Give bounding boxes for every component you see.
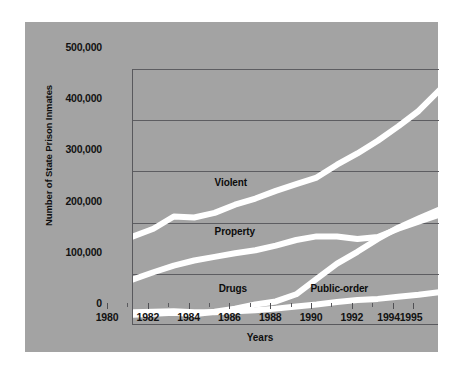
x-tick-label: 1990 (300, 311, 323, 323)
x-tick-label: 1982 (137, 311, 160, 323)
x-tick-label: 1992 (341, 311, 364, 323)
series-line-violent (133, 91, 439, 237)
x-tick-minor (331, 303, 332, 307)
x-tick-minor (127, 303, 128, 307)
x-tick-major (189, 303, 190, 309)
y-tick-label: 300,000 (65, 143, 102, 155)
x-axis-title: Years (107, 332, 413, 343)
plot-area: ViolentPropertyDrugsPublic-order (132, 69, 438, 325)
x-tick-label: 1986 (218, 311, 241, 323)
x-tick-minor (291, 303, 292, 307)
x-tick-major (413, 303, 414, 309)
x-axis-ticks (107, 303, 414, 311)
x-tick-major (393, 303, 394, 309)
y-tick-label: 500,000 (65, 41, 102, 53)
x-tick-label: 1984 (177, 311, 200, 323)
x-tick-minor (372, 303, 373, 307)
y-tick-label: 200,000 (65, 195, 102, 207)
series-label-property: Property (215, 226, 255, 237)
x-tick-label: 1980 (96, 311, 119, 323)
x-tick-label: 1995 (400, 311, 423, 323)
y-tick-label: 0 (96, 297, 102, 309)
series-label-violent: Violent (215, 177, 247, 188)
y-tick-label: 400,000 (65, 92, 102, 104)
series-line-property (133, 215, 439, 280)
y-tick-label: 100,000 (65, 246, 102, 258)
series-label-public-order: Public-order (310, 283, 368, 294)
x-tick-major (229, 303, 230, 309)
x-tick-major (311, 303, 312, 309)
chart-figure: Number of State Prison Inmates ViolentPr… (0, 0, 463, 372)
x-tick-minor (168, 303, 169, 307)
y-axis-tick-labels: 500,000400,000300,000200,000100,0000 (30, 0, 102, 372)
x-tick-minor (250, 303, 251, 307)
series-label-drugs: Drugs (219, 283, 247, 294)
x-tick-major (270, 303, 271, 309)
x-axis-tick-labels: 198019821984198619881990199219941995 (107, 311, 414, 327)
x-tick-minor (209, 303, 210, 307)
x-tick-label: 1994 (377, 311, 400, 323)
x-tick-major (148, 303, 149, 309)
x-tick-major (107, 303, 108, 309)
x-tick-label: 1988 (259, 311, 282, 323)
x-tick-major (352, 303, 353, 309)
series-lines (133, 69, 439, 325)
